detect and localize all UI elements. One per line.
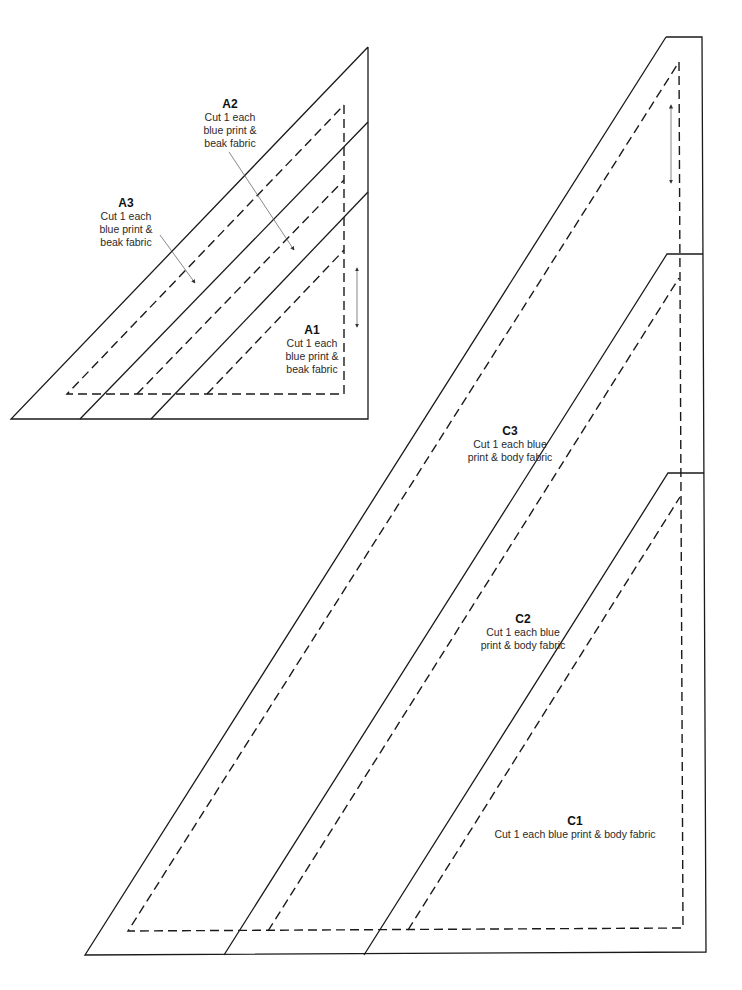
piece-name-a3: A3 [76,196,176,210]
pattern-diagram [0,0,742,990]
piece-name-a2: A2 [180,97,280,111]
seamline-c3 [128,62,683,931]
piece-instruction-a2: Cut 1 each blue print & beak fabric [180,111,280,150]
label-c2: C2 Cut 1 each blue print & body fabric [458,612,588,652]
piece-instruction-c3: Cut 1 each blue print & body fabric [445,438,575,464]
piece-instruction-c2: Cut 1 each blue print & body fabric [458,626,588,652]
piece-name-c2: C2 [458,612,588,626]
label-c1: C1 Cut 1 each blue print & body fabric [480,814,670,841]
piece-instruction-a3: Cut 1 each blue print & beak fabric [76,210,176,249]
piece-name-a1: A1 [262,323,362,337]
piece-instruction-a1: Cut 1 each blue print & beak fabric [262,337,362,376]
label-c3: C3 Cut 1 each blue print & body fabric [445,424,575,464]
label-a1: A1 Cut 1 each blue print & beak fabric [262,323,362,376]
piece-name-c3: C3 [445,424,575,438]
piece-instruction-c1: Cut 1 each blue print & body fabric [480,828,670,841]
seam-c1-c2 [364,473,704,955]
piece-name-c1: C1 [480,814,670,828]
pointer-arrow-a2-icon [229,152,294,250]
label-a2: A2 Cut 1 each blue print & beak fabric [180,97,280,150]
seam-a1-a2 [151,192,368,419]
seamline-c1 [408,497,680,930]
label-a3: A3 Cut 1 each blue print & beak fabric [76,196,176,249]
